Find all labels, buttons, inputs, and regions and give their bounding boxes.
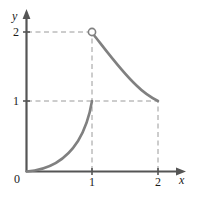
- y-axis: [23, 9, 31, 172]
- x-axis: [26, 168, 186, 176]
- y-axis-arrowhead: [23, 9, 31, 19]
- x-axis-label: x: [179, 174, 184, 186]
- x-tick-label-1: 1: [89, 176, 95, 188]
- x-tick-label-2: 2: [155, 176, 161, 188]
- y-tick-label-2: 2: [13, 26, 19, 38]
- y-axis-label: y: [12, 10, 17, 22]
- graph-canvas: [0, 0, 197, 197]
- curve-decreasing-branch: [94, 35, 159, 102]
- origin-label: 0: [14, 173, 20, 185]
- curve-increasing-branch: [27, 101, 93, 172]
- y-tick-label-1: 1: [13, 95, 19, 107]
- open-circle-marker-icon: [88, 28, 95, 35]
- figure-container: y x 0 2 1 1 2: [0, 0, 197, 197]
